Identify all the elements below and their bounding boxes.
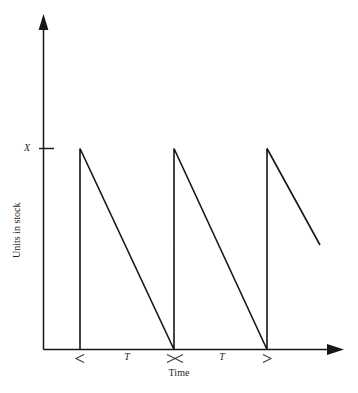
inventory-level-curve bbox=[80, 149, 320, 350]
period-label-first: T bbox=[124, 352, 130, 362]
x-axis-arrow-icon bbox=[327, 344, 344, 355]
y-axis-tick-label-x: X bbox=[24, 143, 30, 153]
interval-marker-start-icon bbox=[76, 355, 84, 363]
plot-canvas bbox=[0, 0, 358, 393]
inventory-sawtooth-figure: X Units in stock T T Time bbox=[0, 0, 358, 393]
interval-marker-end-icon bbox=[263, 355, 271, 363]
interval-marker-middle-right-icon bbox=[175, 355, 183, 363]
x-axis-title: Time bbox=[169, 368, 190, 378]
y-axis-arrow-icon bbox=[39, 14, 49, 30]
y-axis-title: Units in stock bbox=[12, 202, 22, 258]
period-label-second: T bbox=[219, 352, 225, 362]
